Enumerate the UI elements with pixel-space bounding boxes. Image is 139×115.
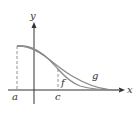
diagram: y x a c f g	[0, 0, 139, 115]
y-axis-arrow-icon	[32, 22, 37, 28]
point-a-label: a	[12, 91, 18, 102]
y-axis	[32, 22, 37, 104]
curve-f	[17, 46, 118, 90]
x-axis-label: x	[127, 84, 133, 95]
curve-g	[17, 46, 120, 90]
point-c-label: c	[55, 91, 61, 102]
y-axis-label: y	[29, 10, 36, 21]
curve-f-label: f	[60, 77, 67, 88]
curve-g-label: g	[92, 70, 98, 81]
